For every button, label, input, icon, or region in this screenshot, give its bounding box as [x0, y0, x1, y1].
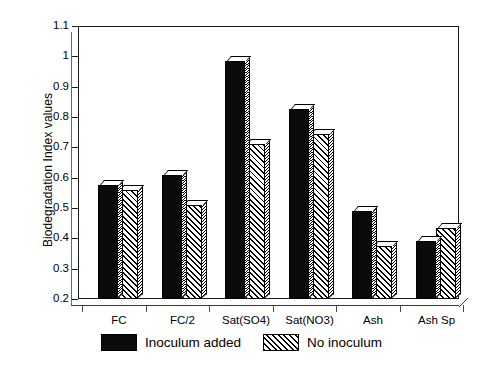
bar-side-face: [372, 206, 377, 298]
x-axis-tick: [209, 305, 210, 312]
chart-legend: Inoculum addedNo inoculum: [0, 334, 483, 351]
y-axis-tick-label: 0.9: [35, 80, 69, 92]
x-axis-tick: [146, 305, 147, 312]
bar: [416, 241, 436, 299]
x-axis-label: Ash Sp: [418, 314, 455, 326]
bar-side-face: [182, 170, 187, 299]
axis-depth-left: [71, 32, 78, 305]
legend-item: Inoculum added: [101, 334, 241, 351]
x-axis-tick: [463, 305, 464, 312]
x-axis-tick: [400, 305, 401, 312]
bar-side-face: [118, 180, 123, 298]
y-axis-tick-label: 0.7: [35, 140, 69, 152]
bar-front-face: [352, 211, 372, 299]
bar-side-face: [436, 236, 441, 298]
bar-series-container: [78, 26, 459, 299]
bar: [352, 211, 372, 299]
legend-swatch: [101, 334, 137, 351]
x-axis-label: Sat(NO3): [285, 314, 334, 326]
bar-front-face: [289, 109, 309, 299]
legend-label: Inoculum added: [145, 335, 241, 350]
bar-side-face: [245, 56, 250, 298]
legend-item: No inoculum: [263, 334, 382, 351]
bar: [289, 109, 309, 299]
legend-swatch: [263, 334, 299, 351]
bar-front-face: [98, 185, 118, 299]
y-axis-tick-label: 0.4: [35, 231, 69, 243]
x-axis-label: FC/2: [170, 314, 195, 326]
y-axis-tick-label: 1.1: [35, 19, 69, 31]
y-axis-tick-label: 0.8: [35, 110, 69, 122]
bar-side-face: [202, 200, 207, 298]
bar: [225, 61, 245, 299]
y-axis-tick-label: 0.3: [35, 262, 69, 274]
bar-side-face: [138, 185, 143, 298]
x-axis-label: Sat(SO4): [222, 314, 270, 326]
y-axis-tick-label: 0.6: [35, 171, 69, 183]
bar-side-face: [392, 241, 397, 298]
bar: [98, 185, 118, 299]
x-axis-tick: [336, 305, 337, 312]
plot-area: 1.110.90.80.70.60.50.40.30.2 FCFC/2Sat(S…: [78, 26, 459, 299]
axis-depth-bottom: [71, 305, 459, 306]
bar-side-face: [456, 223, 461, 298]
bar-side-face: [265, 139, 270, 298]
bar-side-face: [329, 129, 334, 299]
y-axis-tick-label: 0.5: [35, 201, 69, 213]
x-axis-tick: [273, 305, 274, 312]
bar: [162, 175, 182, 299]
bar-front-face: [416, 241, 436, 299]
legend-label: No inoculum: [307, 335, 382, 350]
y-axis-tick-label: 1: [35, 49, 69, 61]
x-axis-tick: [82, 305, 83, 312]
x-axis-label: FC: [111, 314, 126, 326]
x-axis-label: Ash: [363, 314, 383, 326]
y-axis-tick-label: 0.2: [35, 292, 69, 304]
bar-chart-figure: Biodegradation Index values 1.110.90.80.…: [0, 0, 483, 375]
y-axis-tick: 0.2: [72, 299, 78, 300]
bar-front-face: [162, 175, 182, 299]
bar-side-face: [309, 104, 314, 298]
bar-front-face: [225, 61, 245, 299]
